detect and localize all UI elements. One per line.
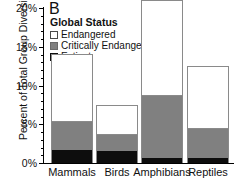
legend-label-endangered: Endangered xyxy=(61,29,116,40)
stacked-bar-chart-figure: Percent of Total Group Diversity 0%5%10%… xyxy=(0,0,234,182)
bar-segment-extinct xyxy=(141,158,183,163)
endangered-swatch-icon xyxy=(50,31,58,39)
bar-segment-endangered xyxy=(141,0,183,95)
x-axis-line xyxy=(43,163,234,164)
bar-birds xyxy=(96,105,138,163)
x-tick-label: Reptiles xyxy=(179,166,234,178)
bar-segment-critically-endangered xyxy=(141,96,183,159)
bar-segment-extinct xyxy=(96,151,138,163)
y-tick-label: 20% xyxy=(16,2,37,14)
bar-segment-endangered xyxy=(96,105,138,135)
bar-segment-endangered xyxy=(51,54,93,122)
bar-segment-endangered xyxy=(187,66,229,129)
bar-amphibians xyxy=(141,0,183,163)
bar-segment-extinct xyxy=(187,158,229,163)
bar-segment-critically-endangered xyxy=(96,135,138,151)
bar-mammals xyxy=(51,54,93,163)
bar-segment-critically-endangered xyxy=(51,122,93,150)
y-tick-label: 15% xyxy=(16,41,37,53)
critically-endangered-swatch-icon xyxy=(50,42,58,50)
y-tick-label: 10% xyxy=(16,80,37,92)
bar-reptiles xyxy=(187,66,229,163)
bar-segment-critically-endangered xyxy=(187,129,229,158)
bar-segment-extinct xyxy=(51,150,93,163)
y-tick-label: 0% xyxy=(22,157,37,169)
y-tick-label: 5% xyxy=(22,118,37,130)
y-axis-ticks: 0%5%10%15%20% xyxy=(0,0,44,182)
